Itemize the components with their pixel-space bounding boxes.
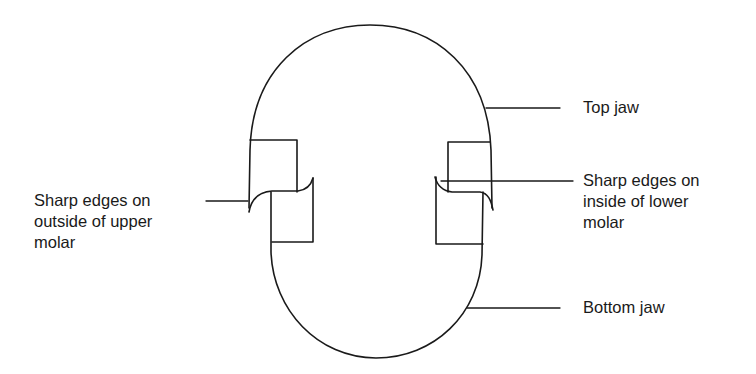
left-sharp-edge xyxy=(249,178,313,212)
right-upper-molar xyxy=(448,142,490,192)
label-line: outside of upper xyxy=(34,211,152,232)
label-line: Sharp edges on xyxy=(583,170,700,191)
label-line: Sharp edges on xyxy=(34,190,152,211)
label-line: molar xyxy=(583,212,700,233)
top-jaw-label: Top jaw xyxy=(583,97,639,118)
right-lower-molar xyxy=(436,177,483,244)
bottom-jaw-outline xyxy=(271,192,483,358)
left-upper-molar xyxy=(250,140,297,192)
label-line: molar xyxy=(34,232,152,253)
right-sharp-edge xyxy=(435,177,493,210)
label-line: Bottom jaw xyxy=(583,297,665,318)
bottom-jaw-label: Bottom jaw xyxy=(583,297,665,318)
right-molar-label: Sharp edges on inside of lower molar xyxy=(583,170,700,233)
left-molar-label: Sharp edges on outside of upper molar xyxy=(34,190,152,253)
label-line: Top jaw xyxy=(583,97,639,118)
label-line: inside of lower xyxy=(583,191,700,212)
